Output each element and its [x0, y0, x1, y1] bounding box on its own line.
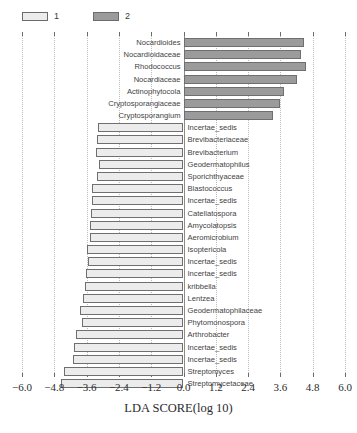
bar-series: NocardioidesNocardioidaceaeRhodococcusNo…	[0, 32, 357, 377]
bar-label: Catellatospora	[188, 210, 237, 218]
legend-entry-1: 1	[22, 12, 59, 21]
bar-row[interactable]: Arthrobacter	[0, 330, 357, 339]
bar[interactable]	[92, 184, 183, 193]
bar-label: Incertae_sedis	[188, 344, 237, 352]
x-tick-label--4.8: −4.8	[44, 381, 64, 393]
bar[interactable]	[73, 355, 183, 364]
bar-row[interactable]: kribbella	[0, 282, 357, 291]
bar-label: Nocardiaceae	[134, 76, 181, 84]
bar-label: Phytomonospora	[188, 319, 245, 327]
bar-row[interactable]: Incertae_sedis	[0, 343, 357, 352]
bar-row[interactable]: Cryptosporangiaceae	[0, 99, 357, 108]
x-tick-label--6.0: −6.0	[12, 381, 32, 393]
bar-row[interactable]: Nocardioidaceae	[0, 50, 357, 59]
bar-label: Aeromicrobium	[188, 234, 239, 242]
bar-label: Incertae_sedis	[188, 197, 237, 205]
bar-row[interactable]: Cryptosporangium	[0, 111, 357, 120]
bar[interactable]	[90, 221, 184, 230]
bar-row[interactable]: Isoptericola	[0, 245, 357, 254]
bar-row[interactable]: Amycolatopsis	[0, 221, 357, 230]
bar[interactable]	[184, 99, 281, 108]
bar[interactable]	[85, 282, 184, 291]
legend-swatch-2	[93, 12, 119, 21]
bar-row[interactable]: Rhodococcus	[0, 62, 357, 71]
bar-label: Brevibacteriaceae	[188, 136, 249, 144]
bar-label: Streptomyces	[188, 368, 234, 376]
bar[interactable]	[87, 245, 184, 254]
x-tick-label--3.6: −3.6	[77, 381, 97, 393]
x-tick-label-0.0: 0.0	[177, 381, 191, 393]
bar-row[interactable]: Aeromicrobium	[0, 233, 357, 242]
bar-label: Incertae_sedis	[188, 124, 237, 132]
bar[interactable]	[64, 367, 184, 376]
bar-label: Lentzea	[188, 295, 215, 303]
bar[interactable]	[97, 172, 184, 181]
bar-label: Geodermatophilaceae	[188, 307, 263, 315]
bar-label: Geodermatophilus	[188, 161, 250, 169]
x-tick-label-1.2: 1.2	[209, 381, 223, 393]
bar-row[interactable]: Phytomonospora	[0, 318, 357, 327]
bar[interactable]	[74, 343, 183, 352]
bar[interactable]	[86, 269, 183, 278]
bar[interactable]	[184, 50, 301, 59]
bar[interactable]	[184, 38, 305, 47]
legend-label-2: 2	[125, 12, 130, 21]
bar-row[interactable]: Incertae_sedis	[0, 257, 357, 266]
bar[interactable]	[83, 294, 183, 303]
legend-swatch-1	[22, 12, 48, 21]
x-tick-label-3.6: 3.6	[274, 381, 288, 393]
bar-label: Nocardioidaceae	[124, 51, 181, 59]
bar[interactable]	[97, 135, 183, 144]
bar[interactable]	[92, 196, 184, 205]
bar-row[interactable]: Lentzea	[0, 294, 357, 303]
bar-row[interactable]: Brevibacteriaceae	[0, 135, 357, 144]
bar-label: Cryptosporangiaceae	[108, 100, 180, 108]
bar-label: Blastococcus	[188, 185, 233, 193]
bar-row[interactable]: Geodermatophilus	[0, 160, 357, 169]
bar-row[interactable]: Streptomyces	[0, 367, 357, 376]
bar-row[interactable]: Incertae_sedis	[0, 123, 357, 132]
bar[interactable]	[80, 306, 183, 315]
bar-row[interactable]: Nocardiaceae	[0, 75, 357, 84]
bar-row[interactable]: Incertae_sedis	[0, 355, 357, 364]
bar-row[interactable]: Geodermatophilaceae	[0, 306, 357, 315]
bar[interactable]	[184, 62, 306, 71]
bar-label: Arthrobacter	[188, 331, 230, 339]
bar-label: Rhodococcus	[134, 63, 180, 71]
bar-row[interactable]: Catellatospora	[0, 209, 357, 218]
bar-label: Amycolatopsis	[188, 222, 237, 230]
bar-label: kribbella	[188, 283, 216, 291]
x-tick-label-4.8: 4.8	[306, 381, 320, 393]
bar-row[interactable]: Actinophytocola	[0, 87, 357, 96]
bar[interactable]	[99, 160, 184, 169]
bar[interactable]	[96, 148, 184, 157]
bar[interactable]	[88, 257, 184, 266]
x-tick-label--2.4: −2.4	[109, 381, 129, 393]
bar[interactable]	[91, 209, 184, 218]
bar-row[interactable]: Incertae_sedis	[0, 269, 357, 278]
bar-row[interactable]: Incertae_sedis	[0, 196, 357, 205]
bar-label: Brevibacterium	[188, 149, 239, 157]
bar-label: Incertae_sedis	[188, 270, 237, 278]
bar-label: Nocardioides	[136, 39, 180, 47]
bar[interactable]	[76, 330, 184, 339]
bar-row[interactable]: Blastococcus	[0, 184, 357, 193]
bar[interactable]	[184, 75, 297, 84]
bar-label: Actinophytocola	[127, 88, 181, 96]
bar-label: Isoptericola	[188, 246, 227, 254]
bar-row[interactable]: Brevibacterium	[0, 148, 357, 157]
bar-label: Cryptosporangium	[118, 112, 180, 120]
bar[interactable]	[82, 318, 183, 327]
legend-label-1: 1	[54, 12, 59, 21]
chart-legend: 12	[22, 8, 130, 24]
x-axis-title: LDA SCORE(log 10)	[0, 401, 357, 416]
bar[interactable]	[184, 87, 284, 96]
bar[interactable]	[184, 111, 273, 120]
bar[interactable]	[90, 233, 183, 242]
plot-area: NocardioidesNocardioidaceaeRhodococcusNo…	[0, 32, 357, 377]
bar-row[interactable]: Sporichthyaceae	[0, 172, 357, 181]
bar-label: Sporichthyaceae	[188, 173, 245, 181]
x-tick-label-6.0: 6.0	[338, 381, 352, 393]
bar-row[interactable]: Nocardioides	[0, 38, 357, 47]
bar[interactable]	[98, 123, 184, 132]
